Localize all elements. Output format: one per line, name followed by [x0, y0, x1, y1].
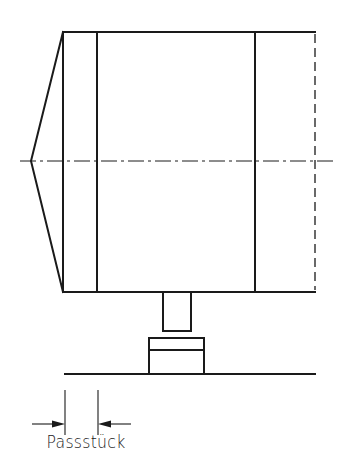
conical-end-cap [31, 32, 63, 292]
arrow-right-icon [52, 421, 65, 428]
shaft [163, 292, 191, 331]
arrow-left-icon [98, 421, 111, 428]
technical-drawing [0, 0, 343, 464]
support-block [149, 338, 204, 374]
fitting-piece-label: Passstück [44, 432, 129, 452]
